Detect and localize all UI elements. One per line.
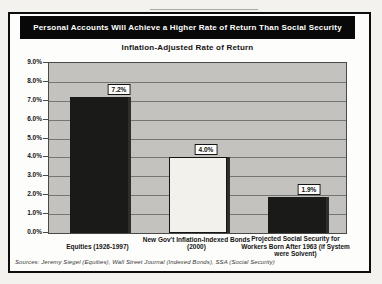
bar-value-label: 1.9% <box>298 184 321 195</box>
y-axis-tick-label: 1.0% <box>10 209 42 217</box>
plot-area: 7.2%4.0%1.9% <box>48 62 347 234</box>
x-axis-labels: Equities (1926-1997)New Gov't Inflation-… <box>48 235 345 260</box>
y-axis-tick-mark <box>43 119 48 120</box>
chart-banner-title: Personal Accounts Will Achieve a Higher … <box>20 16 355 39</box>
y-axis-tick-mark <box>43 175 48 176</box>
x-axis-category-text: Projected Social Security for Workers Bo… <box>241 235 351 258</box>
y-axis-tick-mark <box>43 138 48 139</box>
y-axis-tick-label: 3.0% <box>10 171 42 179</box>
x-axis-category-text: Equities (1926-1997) <box>43 243 153 251</box>
y-axis-tick-label: 8.0% <box>10 77 42 85</box>
y-axis-tick-mark <box>43 100 48 101</box>
y-axis-tick-mark <box>43 213 48 214</box>
bar-2 <box>169 157 227 233</box>
y-axis-tick-label: 6.0% <box>10 115 42 123</box>
bar-value-label: 7.2% <box>108 84 131 95</box>
bar-value-label: 4.0% <box>195 144 218 155</box>
bar-3 <box>268 197 326 233</box>
bar-1 <box>70 97 128 233</box>
y-axis-tick-label: 5.0% <box>10 134 42 142</box>
y-axis-tick-label: 2.0% <box>10 190 42 198</box>
scan-artifact-line <box>150 9 258 10</box>
chart-subtitle: Inflation-Adjusted Rate of Return <box>10 43 365 52</box>
y-axis-tick-label: 9.0% <box>10 58 42 66</box>
gridline <box>49 82 346 83</box>
source-note: Sources: Jeremy Siegel (Equities), Wall … <box>15 259 360 265</box>
x-axis-category-text: New Gov't Inflation-Indexed Bonds (2000) <box>142 236 252 251</box>
chart-frame: Personal Accounts Will Achieve a Higher … <box>8 12 371 273</box>
y-axis-tick-label: 0.0% <box>10 228 42 236</box>
y-axis-tick-mark <box>43 194 48 195</box>
y-axis-tick-label: 4.0% <box>10 152 42 160</box>
x-axis-category-label: Projected Social Security for Workers Bo… <box>246 235 345 260</box>
y-axis-tick-mark <box>43 81 48 82</box>
y-axis-tick-mark <box>43 232 48 233</box>
x-axis-category-label: New Gov't Inflation-Indexed Bonds (2000) <box>147 235 246 260</box>
x-axis-category-label: Equities (1926-1997) <box>48 235 147 260</box>
y-axis-tick-mark <box>43 156 48 157</box>
y-axis-tick-label: 7.0% <box>10 96 42 104</box>
y-axis-tick-mark <box>43 62 48 63</box>
